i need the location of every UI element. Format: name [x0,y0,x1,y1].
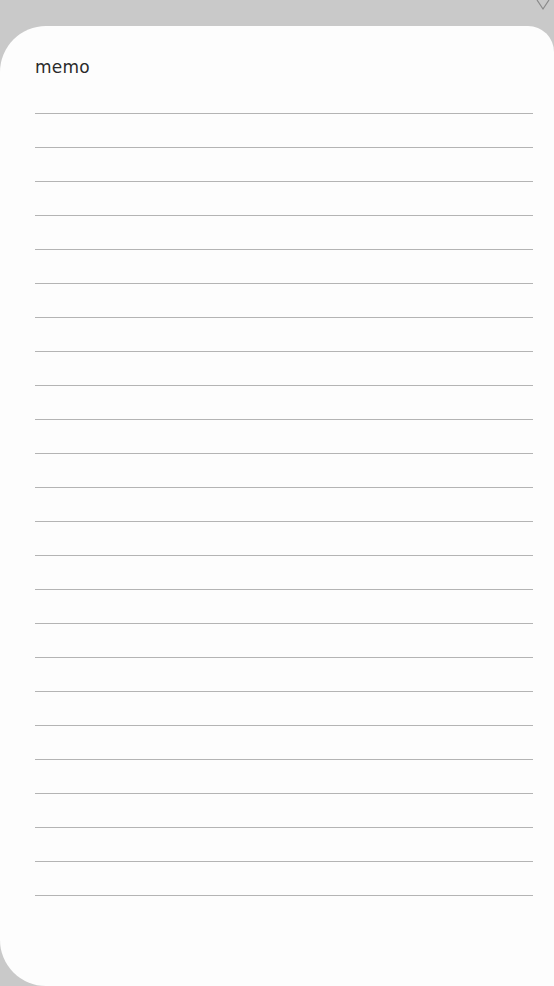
memo-line [35,351,533,352]
memo-line [35,895,533,896]
memo-line [35,793,533,794]
memo-line [35,317,533,318]
memo-line [35,657,533,658]
memo-line [35,249,533,250]
memo-line [35,555,533,556]
memo-line [35,283,533,284]
memo-line [35,385,533,386]
memo-line [35,147,533,148]
memo-line [35,827,533,828]
memo-line [35,215,533,216]
memo-card: memo [0,26,554,986]
memo-line [35,453,533,454]
memo-line [35,589,533,590]
memo-line [35,113,533,114]
memo-line [35,861,533,862]
memo-line [35,419,533,420]
memo-line [35,691,533,692]
memo-line [35,181,533,182]
memo-line [35,623,533,624]
chevron-down-icon[interactable] [536,0,550,12]
memo-line [35,759,533,760]
memo-title: memo [35,57,90,77]
memo-line [35,725,533,726]
memo-line [35,487,533,488]
memo-line [35,521,533,522]
